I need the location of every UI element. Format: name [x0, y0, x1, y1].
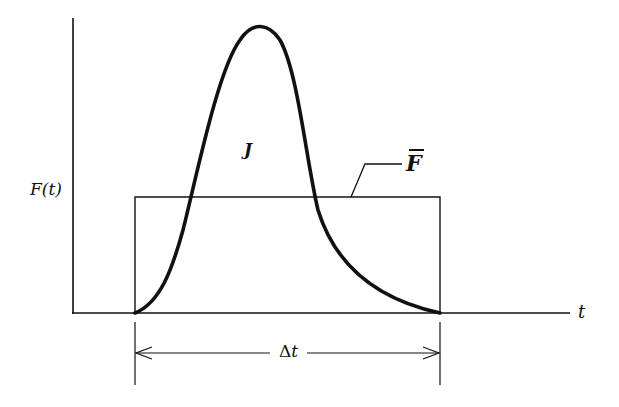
y-axis-label: F(t): [30, 181, 62, 198]
overbar: [409, 149, 424, 151]
interval-variable: t: [291, 341, 298, 361]
average-force-label: F: [406, 152, 422, 174]
impulse-area-label: J: [244, 141, 252, 158]
force-curve: [135, 27, 440, 314]
impulse-diagram: [0, 0, 619, 407]
interval-label: Δt: [273, 343, 304, 360]
x-axis-label: t: [578, 303, 585, 321]
average-force-leader-line: [351, 164, 402, 197]
average-force-symbol: F: [406, 150, 422, 176]
average-force-rectangle: [135, 197, 440, 313]
delta-symbol: Δ: [279, 341, 291, 361]
